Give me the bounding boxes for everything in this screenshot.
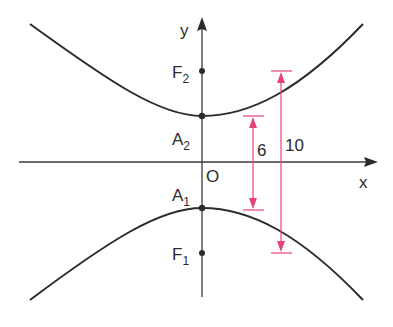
hyperbola-upper-branch	[30, 24, 363, 116]
y-axis-arrow-icon	[197, 17, 207, 31]
x-axis-label: x	[359, 173, 368, 192]
vertex-a1-label: A1	[172, 186, 190, 209]
arrowhead-down-icon	[277, 241, 285, 252]
arrowhead-down-icon	[249, 198, 257, 209]
focus-f2-point	[199, 68, 205, 74]
arrowhead-up-icon	[277, 72, 285, 83]
hyperbola-lower-branch	[30, 208, 363, 300]
vertex-a1-point	[199, 205, 205, 211]
hyperbola-diagram: y x O F2 A2 A1 F1 6 10	[0, 0, 393, 327]
vertex-distance-label: 6	[257, 141, 266, 160]
arrowhead-up-icon	[249, 117, 257, 128]
y-axis-label: y	[180, 21, 189, 40]
dimension-vertex-distance	[243, 116, 264, 210]
focus-f1-point	[199, 250, 205, 256]
origin-label: O	[206, 167, 219, 186]
vertex-a2-label: A2	[172, 130, 190, 153]
focal-distance-label: 10	[285, 136, 304, 155]
vertex-a2-point	[199, 113, 205, 119]
focus-f2-label: F2	[172, 63, 189, 86]
x-axis-arrow-icon	[364, 157, 378, 167]
focus-f1-label: F1	[172, 245, 189, 268]
